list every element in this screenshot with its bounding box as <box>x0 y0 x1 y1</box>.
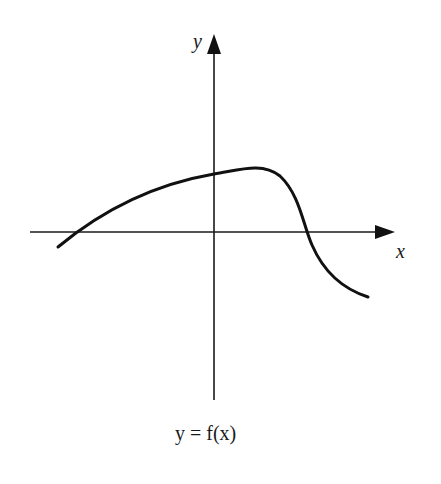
function-graph: y x y = f(x) <box>0 0 441 484</box>
y-axis-arrow-icon <box>207 34 221 54</box>
x-axis-arrow-icon <box>375 225 395 239</box>
y-axis-label: y <box>191 30 202 53</box>
x-axis-label: x <box>395 240 405 262</box>
caption: y = f(x) <box>175 422 236 445</box>
